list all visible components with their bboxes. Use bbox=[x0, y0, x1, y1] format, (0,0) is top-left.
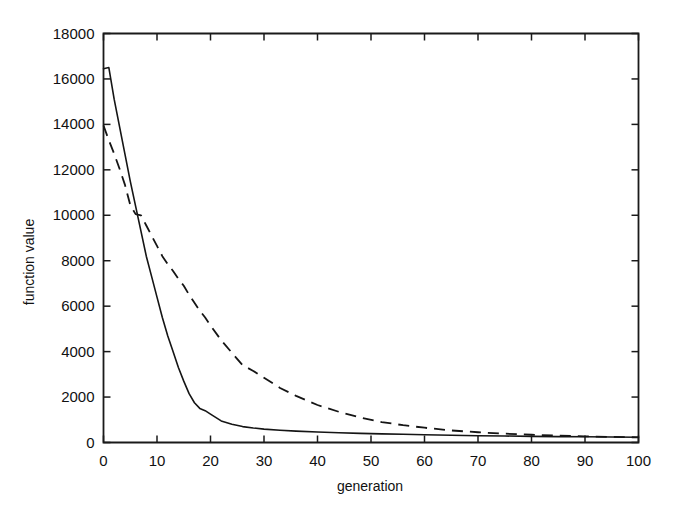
y-tick-label: 16000 bbox=[53, 70, 95, 87]
y-tick-label: 14000 bbox=[53, 115, 95, 132]
convergence-line-chart: 0102030405060708090100 02000400060008000… bbox=[0, 0, 673, 512]
y-tick-label: 18000 bbox=[53, 25, 95, 42]
x-tick-label: 90 bbox=[577, 452, 594, 469]
x-tick-label: 30 bbox=[256, 452, 273, 469]
chart-background bbox=[0, 0, 673, 512]
x-tick-label: 70 bbox=[470, 452, 487, 469]
x-tick-label: 100 bbox=[626, 452, 651, 469]
y-tick-label: 0 bbox=[86, 434, 94, 451]
y-tick-label: 4000 bbox=[61, 343, 94, 360]
y-tick-label: 12000 bbox=[53, 161, 95, 178]
x-tick-label: 0 bbox=[99, 452, 107, 469]
x-tick-label: 50 bbox=[363, 452, 380, 469]
x-tick-label: 60 bbox=[416, 452, 433, 469]
y-tick-label: 2000 bbox=[61, 388, 94, 405]
y-tick-label: 10000 bbox=[53, 206, 95, 223]
x-axis-title: generation bbox=[337, 478, 403, 494]
x-tick-label: 80 bbox=[523, 452, 540, 469]
x-tick-label: 40 bbox=[309, 452, 326, 469]
y-axis-title: function value bbox=[21, 219, 37, 306]
x-tick-label: 10 bbox=[149, 452, 166, 469]
y-tick-label: 6000 bbox=[61, 297, 94, 314]
x-tick-label: 20 bbox=[202, 452, 219, 469]
y-tick-label: 8000 bbox=[61, 252, 94, 269]
chart-page: 0102030405060708090100 02000400060008000… bbox=[0, 0, 673, 512]
